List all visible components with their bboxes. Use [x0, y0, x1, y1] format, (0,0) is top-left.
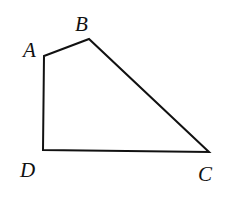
quadrilateral-abcd [43, 39, 209, 152]
vertex-label-a: A [21, 38, 36, 62]
quadrilateral-diagram: A B C D [0, 0, 229, 200]
vertex-label-d: D [19, 158, 35, 182]
vertex-label-c: C [198, 162, 213, 186]
vertex-label-b: B [75, 12, 88, 36]
